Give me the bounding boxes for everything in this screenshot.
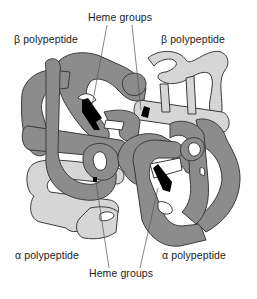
beta-polypeptide-label-right: β polypeptide <box>161 33 225 45</box>
alpha-subunit-right <box>118 119 240 246</box>
heme-groups-label-top: Heme groups <box>88 11 152 23</box>
beta-polypeptide-label-left: β polypeptide <box>14 33 78 45</box>
alpha-polypeptide-label-left: α polypeptide <box>15 249 79 261</box>
gap-highlight <box>104 120 124 130</box>
beta-subunit-right <box>134 51 229 132</box>
hemoglobin-diagram: Heme groups β polypeptide β polypeptide … <box>0 0 257 299</box>
heme-groups-label-bottom: Heme groups <box>89 267 153 279</box>
alpha-polypeptide-label-right: α polypeptide <box>162 249 226 261</box>
heme-alpha-left <box>93 177 97 182</box>
